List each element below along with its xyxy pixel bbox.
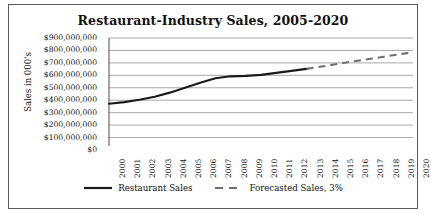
x-axis-tick-label: 2012 [300, 159, 309, 178]
y-axis-tick-label: $700,000,000 [31, 59, 97, 67]
y-axis-tick-label: $900,000,000 [31, 34, 97, 42]
y-axis-tick-label: $600,000,000 [31, 71, 97, 79]
y-axis-tick-label: $400,000,000 [31, 96, 97, 104]
y-axis-tick-label: $200,000,000 [31, 121, 97, 129]
x-axis-tick-label: 2018 [392, 159, 401, 178]
y-axis-tick-label: $100,000,000 [31, 134, 97, 142]
x-axis-tick-label: 2015 [346, 159, 355, 178]
legend-item-restaurant-sales: Restaurant Sales [83, 183, 192, 193]
series-line-forecasted-sales [307, 52, 413, 69]
x-axis-tick-label: 2019 [407, 159, 416, 178]
chart-container: Restaurant-Industry Sales, 2005-2020 Sal… [8, 4, 418, 209]
legend-swatch-dashed [214, 184, 244, 192]
x-axis-tick-label: 2001 [133, 159, 142, 178]
x-axis-tick-label: 2003 [164, 159, 173, 178]
plot-area [101, 34, 413, 146]
x-axis-tick-label: 2011 [285, 159, 294, 178]
x-axis-tick-label: 2010 [270, 159, 279, 178]
x-axis-tick-label: 2016 [361, 159, 370, 178]
legend-label-forecasted-sales: Forecasted Sales, 3% [249, 183, 342, 193]
legend-label-restaurant-sales: Restaurant Sales [118, 183, 192, 193]
x-axis-tick-label: 2008 [240, 159, 249, 178]
x-axis-tick-label: 2000 [118, 159, 127, 178]
legend-swatch-solid [83, 184, 113, 192]
y-axis-tick-labels: $900,000,000$800,000,000$700,000,000$600… [31, 30, 97, 150]
x-axis-tick-label: 2002 [148, 159, 157, 178]
x-axis-tick-label: 2020 [422, 159, 431, 178]
y-axis-tick-label: $500,000,000 [31, 84, 97, 92]
chart-title: Restaurant-Industry Sales, 2005-2020 [9, 13, 417, 28]
x-axis-tick-label: 2007 [224, 159, 233, 178]
legend-item-forecasted-sales: Forecasted Sales, 3% [214, 183, 342, 193]
x-axis-tick-label: 2014 [331, 159, 340, 178]
plot-svg [101, 34, 413, 146]
chart-legend: Restaurant Sales Forecasted Sales, 3% [9, 183, 417, 193]
gridlines [109, 38, 413, 146]
y-axis-tick-label: $800,000,000 [31, 46, 97, 54]
y-axis-tick-label: $0 [31, 146, 97, 154]
x-axis-tick-labels: 2000200120022003200420052006200720082009… [101, 148, 413, 182]
x-axis-tick-label: 2017 [376, 159, 385, 178]
x-axis-tick-label: 2004 [179, 159, 188, 178]
x-axis-tick-label: 2005 [194, 159, 203, 178]
series-line-restaurant-sales [109, 69, 307, 104]
x-axis-tick-label: 2009 [255, 159, 264, 178]
y-axis-tick-label: $300,000,000 [31, 109, 97, 117]
x-axis-tick-label: 2006 [209, 159, 218, 178]
x-axis-tick-label: 2013 [316, 159, 325, 178]
